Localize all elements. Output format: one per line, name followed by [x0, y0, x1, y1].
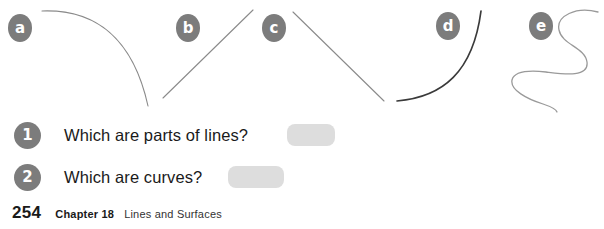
figures-drawing: [0, 0, 604, 115]
footer-page-number: 254: [12, 203, 41, 223]
answer-input-1[interactable]: [287, 124, 335, 146]
worksheet-page: a b c d e 1 Which are parts of lines? 2 …: [0, 0, 604, 229]
questions-list: 1 Which are parts of lines? 2 Which are …: [0, 114, 604, 198]
figure-label-e: e: [529, 12, 553, 40]
question-row-2: 2 Which are curves?: [0, 156, 604, 198]
figure-a-curve: [42, 11, 148, 106]
footer-chapter-label: Chapter 18: [55, 208, 114, 220]
page-footer: 254 Chapter 18 Lines and Surfaces: [0, 203, 604, 223]
figure-label-b: b: [176, 14, 200, 42]
question-text-2: Which are curves?: [64, 168, 202, 187]
figure-label-a: a: [8, 14, 32, 42]
question-number-badge-2: 2: [14, 164, 41, 191]
figure-e-squiggle: [512, 10, 598, 112]
question-text-1: Which are parts of lines?: [64, 126, 248, 145]
figure-label-c: c: [262, 14, 286, 42]
footer-chapter-title: Lines and Surfaces: [124, 208, 222, 220]
question-number-badge-1: 1: [14, 122, 41, 149]
figure-c-line: [293, 12, 384, 101]
answer-input-2[interactable]: [228, 166, 284, 188]
figure-label-d: d: [436, 12, 460, 40]
figures-row: a b c d e: [0, 0, 604, 115]
question-row-1: 1 Which are parts of lines?: [0, 114, 604, 156]
